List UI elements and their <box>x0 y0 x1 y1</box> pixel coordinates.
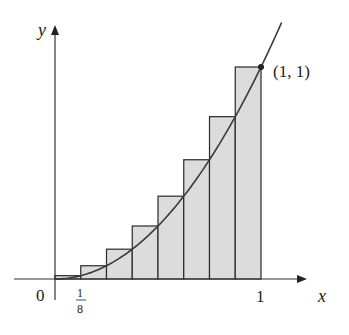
tick-label-one-eighth-numerator: 1 <box>77 286 83 300</box>
y-axis <box>51 25 59 300</box>
riemann-rectangle <box>158 196 184 279</box>
origin-label: 0 <box>36 286 45 305</box>
riemann-rectangle <box>132 226 158 279</box>
point-annotation: (1, 1) <box>273 62 310 81</box>
x-axis-arrow-icon <box>297 275 307 283</box>
tick-label-one-eighth-denominator: 8 <box>77 302 83 316</box>
y-axis-arrow-icon <box>51 25 59 35</box>
tick-label-one: 1 <box>256 287 265 306</box>
y-axis-label: y <box>36 20 46 40</box>
riemann-rectangle <box>210 117 236 279</box>
x-axis-label: x <box>317 286 326 306</box>
riemann-sum-chart: y x 0 1 8 1 (1, 1) <box>0 0 349 335</box>
riemann-rectangle <box>235 67 261 279</box>
point-marker <box>258 64 264 70</box>
riemann-rectangles <box>55 67 261 279</box>
